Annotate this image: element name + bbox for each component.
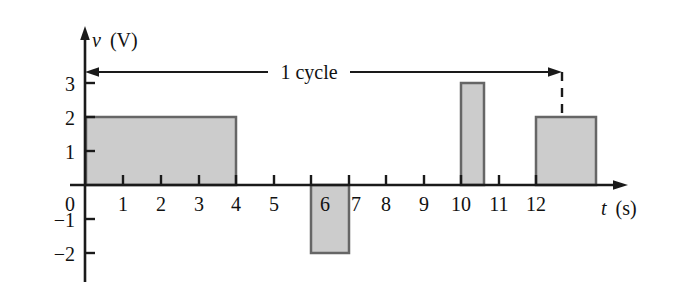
y-tick-label-neg2: −2 xyxy=(54,243,75,265)
waveform-figure: 3 2 1 0 −1 −2 1 2 3 4 5 6 7 8 9 10 11 12… xyxy=(0,0,674,298)
x-tick-label-10: 10 xyxy=(451,193,471,215)
pulse-rectangles xyxy=(86,83,596,253)
x-axis-title-unit: (s) xyxy=(616,197,637,220)
x-tick-label-12: 12 xyxy=(526,193,546,215)
x-tick-label-8: 8 xyxy=(381,193,391,215)
waveform-chart-svg: 3 2 1 0 −1 −2 1 2 3 4 5 6 7 8 9 10 11 12… xyxy=(0,0,674,298)
cycle-annotation: 1 cycle xyxy=(85,61,562,84)
y-tick-label-3: 3 xyxy=(65,73,75,95)
x-tick-label-7: 7 xyxy=(351,193,361,215)
x-axis-title: t (s) xyxy=(601,197,637,220)
x-tick-label-1: 1 xyxy=(118,193,128,215)
x-tick-label-6: 6 xyxy=(320,193,330,215)
x-tick-label-5: 5 xyxy=(269,193,279,215)
y-tick-label-neg1: −1 xyxy=(54,209,75,231)
x-tick-label-4: 4 xyxy=(231,193,241,215)
y-tick-label-2: 2 xyxy=(65,107,75,129)
pulse-rect-3 xyxy=(461,83,484,185)
cycle-arrowhead-right xyxy=(548,67,562,76)
y-axis-title-variable: v xyxy=(92,29,101,51)
y-axis-title-unit: (V) xyxy=(110,29,138,52)
x-tick-label-9: 9 xyxy=(419,193,429,215)
pulse-rect-2 xyxy=(311,185,349,253)
x-tick-label-2: 2 xyxy=(156,193,166,215)
y-axis-arrowhead xyxy=(80,26,90,40)
x-axis-title-variable: t xyxy=(601,197,607,219)
cycle-annotation-label: 1 cycle xyxy=(280,61,337,84)
x-axis-arrowhead xyxy=(613,180,628,190)
x-tick-label-11: 11 xyxy=(489,193,508,215)
pulse-rect-4 xyxy=(536,117,596,185)
y-tick-label-1: 1 xyxy=(65,141,75,163)
x-tick-label-3: 3 xyxy=(194,193,204,215)
pulse-rect-1 xyxy=(86,117,236,185)
y-axis-title: v (V) xyxy=(92,29,138,52)
y-axis-tick-labels: 3 2 1 0 −1 −2 xyxy=(54,73,75,265)
cycle-arrowhead-left xyxy=(85,67,99,76)
